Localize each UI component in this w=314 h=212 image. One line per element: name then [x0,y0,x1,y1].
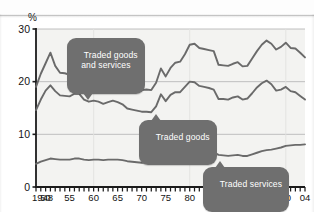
x-axis-tick-label: 50 [40,192,51,203]
callout-tail-icon [151,114,161,121]
callout-traded-services: Traded services [203,167,289,212]
chart-page: % 01020301948505560657075808590950004 Tr… [0,0,314,212]
x-axis-tick-label: 55 [64,192,75,203]
y-axis-tick-label: 20 [18,75,30,87]
x-axis-tick-label: 70 [136,192,147,203]
x-axis-tick-label: 80 [184,192,195,203]
x-axis-tick-label: 65 [112,192,123,203]
callout-tail-icon [215,161,225,168]
x-axis-tick-label: 60 [88,192,99,203]
y-axis-tick-label: 30 [18,23,30,35]
callout-traded-goods-label: Traded goods [156,132,210,142]
callout-traded-goods: Traded goods [139,120,217,165]
callout-traded-services-label: Traded services [220,179,282,189]
y-axis-tick-label: 0 [24,181,30,193]
callout-traded-goods-and-services: Traded goods and services [67,38,145,94]
callout-traded-goods-and-services-label: Traded goods and services [81,50,138,70]
callout-tail-icon [83,93,93,100]
y-axis-tick-label: 10 [18,128,30,140]
x-axis-tick-label: 04 [300,192,311,203]
x-axis-tick-label: 75 [160,192,171,203]
